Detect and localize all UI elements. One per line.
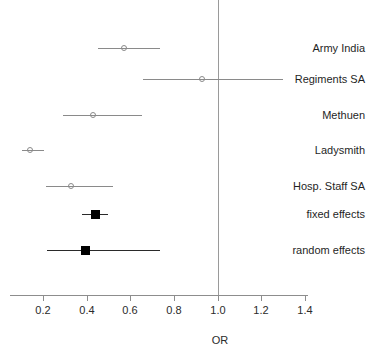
ci-line [63, 115, 143, 116]
row-label-fixed-effects: fixed effects [307, 208, 366, 220]
ci-line [143, 79, 283, 80]
x-tick-label-0.6: 0.6 [122, 304, 137, 316]
forest-plot: 0.20.40.60.81.01.21.4 Army IndiaRegiment… [0, 0, 371, 358]
study-marker [27, 147, 33, 153]
x-tick-1.0 [218, 296, 219, 301]
row-label-ladysmith: Ladysmith [315, 144, 365, 156]
x-tick-0.8 [174, 296, 175, 301]
row-label-methuen: Methuen [322, 109, 365, 121]
ci-line [46, 186, 113, 187]
row-label-hosp-staff-sa: Hosp. Staff SA [293, 180, 365, 192]
study-marker [199, 76, 205, 82]
ci-line [98, 48, 160, 49]
summary-marker [81, 246, 90, 255]
row-label-army-india: Army India [312, 42, 365, 54]
x-tick-0.6 [130, 296, 131, 301]
x-tick-1.4 [305, 296, 306, 301]
x-tick-label-0.8: 0.8 [166, 304, 181, 316]
x-tick-label-0.2: 0.2 [35, 304, 50, 316]
ci-line [22, 150, 44, 151]
x-tick-1.2 [261, 296, 262, 301]
study-marker [90, 112, 96, 118]
reference-line-or-1 [218, 0, 219, 299]
x-axis-line [10, 295, 308, 296]
row-label-random-effects: random effects [292, 244, 365, 256]
study-marker [121, 45, 127, 51]
study-marker [68, 183, 74, 189]
ci-line [47, 250, 159, 251]
x-tick-label-1.4: 1.4 [297, 304, 312, 316]
x-tick-0.2 [43, 296, 44, 301]
summary-marker [91, 210, 100, 219]
x-tick-label-0.4: 0.4 [79, 304, 94, 316]
row-label-regiments-sa: Regiments SA [295, 73, 365, 85]
x-tick-label-1.2: 1.2 [253, 304, 268, 316]
x-tick-label-1.0: 1.0 [210, 304, 225, 316]
x-axis-title: OR [212, 334, 229, 346]
x-tick-0.4 [87, 296, 88, 301]
